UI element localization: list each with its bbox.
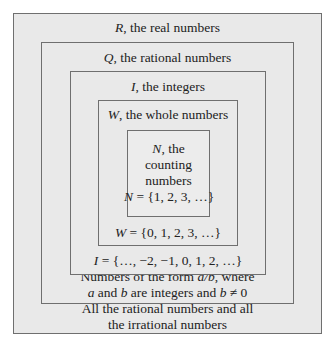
whole-set-notation: = {0, 1, 2, 3, …} — [126, 225, 221, 240]
counting-numbers-title-line1: N, the — [128, 141, 209, 157]
integers-definition: I = {…, −2, −1, 0, 1, 2, …} — [71, 253, 265, 269]
real-numbers-title: R, the real numbers — [14, 20, 321, 36]
whole-symbol: W — [108, 107, 119, 122]
rational-title-text: , the rational numbers — [114, 50, 232, 65]
real-numbers-description-line2: the irrational numbers — [14, 317, 321, 333]
counting-numbers-definition: N = {1, 2, 3, …} — [124, 189, 213, 205]
rational-numbers-description-line2: a and b are integers and b ≠ 0 — [42, 285, 293, 301]
whole-title-text: , the whole numbers — [119, 107, 228, 122]
rational-symbol: Q — [104, 50, 114, 65]
counting-title-text: , the — [161, 141, 184, 156]
whole-numbers-definition: W = {0, 1, 2, 3, …} — [99, 225, 237, 241]
set-counting-numbers-box: N, the counting numbers N = {1, 2, 3, …} — [127, 130, 210, 217]
rational-numbers-title: Q, the rational numbers — [42, 50, 293, 66]
whole-symbol: W — [115, 225, 126, 240]
real-title-text: , the real numbers — [123, 20, 220, 35]
desc-text: ≠ 0 — [226, 285, 247, 300]
desc-text: and — [94, 285, 120, 300]
integers-title: I, the integers — [71, 79, 265, 95]
counting-set-notation: = {1, 2, 3, …} — [133, 189, 214, 204]
counting-symbol: N — [124, 189, 133, 204]
integers-title-text: , the integers — [136, 79, 205, 94]
integers-set-notation: = {…, −2, −1, 0, 1, 2, …} — [98, 253, 242, 268]
counting-numbers-title-line3: numbers — [128, 173, 209, 189]
desc-text: are integers and — [127, 285, 219, 300]
counting-numbers-title-line2: counting — [128, 157, 209, 173]
whole-numbers-title: W, the whole numbers — [99, 107, 237, 123]
